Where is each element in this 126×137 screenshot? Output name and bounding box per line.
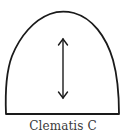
grain-line-arrow-icon	[59, 39, 68, 98]
template-diagram	[0, 0, 126, 137]
diagram-caption: Clematis C	[0, 119, 126, 133]
